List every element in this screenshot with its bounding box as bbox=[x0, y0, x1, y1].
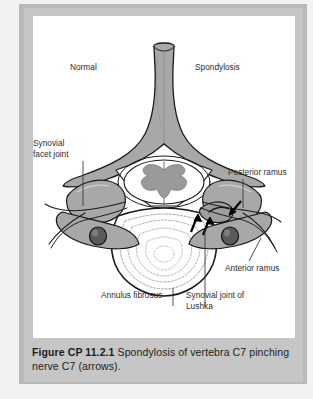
right-transverse-foramen bbox=[222, 227, 239, 245]
figure-number: Figure CP 11.2.1 bbox=[32, 346, 115, 358]
label-normal: Normal bbox=[70, 62, 97, 73]
figure-caption: Figure CP 11.2.1 Spondylosis of vertebra… bbox=[32, 346, 300, 373]
left-vertebral-artery-highlight bbox=[92, 230, 98, 237]
label-annulus-fibrosus: Annulus fibrosus bbox=[101, 290, 162, 301]
right-vertebral-artery-highlight bbox=[224, 230, 230, 237]
label-synovial-facet-joint: Synovial facet joint bbox=[33, 138, 69, 159]
label-spondylosis: Spondylosis bbox=[195, 62, 240, 73]
figure-page: Normal Spondylosis Synovial facet joint … bbox=[0, 0, 313, 399]
label-anterior-ramus: Anterior ramus bbox=[225, 263, 279, 274]
label-posterior-ramus: Posterior ramus bbox=[228, 167, 287, 178]
left-transverse-foramen bbox=[90, 227, 107, 245]
label-synovial-joint-of-lushka: Synovial joint of Lushka bbox=[186, 290, 244, 311]
